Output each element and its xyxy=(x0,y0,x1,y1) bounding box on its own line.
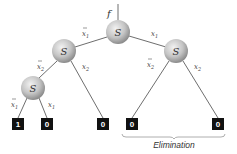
leaf-5: 0 xyxy=(212,118,224,130)
node-left-left: S xyxy=(21,76,45,100)
elimination-label: Elimination xyxy=(153,140,195,150)
leaf-3: 0 xyxy=(97,118,109,130)
svg-text:S: S xyxy=(173,46,180,57)
leaf-4: 0 xyxy=(126,118,138,130)
function-label: f xyxy=(106,8,113,19)
svg-text:S: S xyxy=(30,83,37,94)
edge-label-ll-right: x1 xyxy=(48,101,55,110)
svg-text:1: 1 xyxy=(16,120,21,129)
edge-label-right-right: x2 xyxy=(194,63,201,72)
edge-right-left xyxy=(132,61,169,118)
svg-text:x2: x2 xyxy=(82,63,89,72)
svg-text:x2: x2 xyxy=(37,63,44,72)
edge-root-right xyxy=(129,36,166,47)
elimination-bracket xyxy=(122,134,225,139)
edge-ll-right xyxy=(39,98,47,118)
svg-text:S: S xyxy=(115,27,122,38)
edge-label-left-right: x2 xyxy=(82,63,89,72)
svg-text:0: 0 xyxy=(101,120,106,129)
binary-decision-diagram: f x1 x1 x2 x2 x2 x2 x1 x1 S S xyxy=(0,0,237,154)
edge-ll-left xyxy=(18,98,27,118)
edge-root-left xyxy=(75,37,107,47)
svg-text:x1: x1 xyxy=(48,101,55,110)
svg-text:x1: x1 xyxy=(151,30,158,39)
edge-label-right-left: x2 xyxy=(147,59,154,70)
svg-text:S: S xyxy=(61,46,68,57)
node-left: S xyxy=(52,39,76,63)
svg-text:x1: x1 xyxy=(82,30,89,39)
edge-label-ll-left: x1 xyxy=(11,99,18,110)
edge-label-left-left: x2 xyxy=(37,61,44,72)
node-root: S xyxy=(106,20,130,44)
svg-text:0: 0 xyxy=(45,120,50,129)
svg-text:x2: x2 xyxy=(194,63,201,72)
svg-text:x2: x2 xyxy=(147,61,154,70)
svg-text:x1: x1 xyxy=(11,101,18,110)
edge-label-root-right: x1 xyxy=(151,30,158,39)
leaf-2: 0 xyxy=(41,118,53,130)
svg-text:0: 0 xyxy=(130,120,135,129)
edge-label-root-left: x1 xyxy=(82,28,89,39)
node-right: S xyxy=(164,39,188,63)
leaf-1: 1 xyxy=(12,118,24,130)
svg-text:0: 0 xyxy=(216,120,221,129)
